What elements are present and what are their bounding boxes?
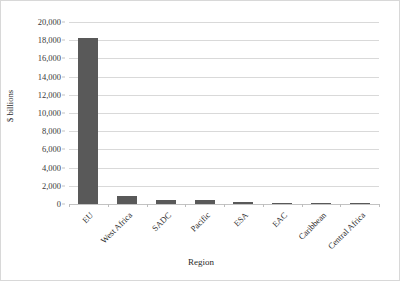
x-axis-tick-label: Caribbean	[296, 210, 328, 242]
bar-slot	[263, 22, 302, 204]
x-axis-tick-mark	[69, 204, 70, 207]
y-axis-tick-mark	[62, 185, 65, 186]
bar[interactable]	[78, 38, 98, 204]
x-axis-title: Region	[1, 257, 400, 267]
bar-slot	[108, 22, 147, 204]
bar-slot	[302, 22, 341, 204]
x-axis-tick-label: ESA	[232, 210, 250, 228]
bar-slot	[185, 22, 224, 204]
y-axis-title-text: $ billions	[5, 90, 15, 122]
x-axis-tick-label: Pacific	[188, 210, 212, 234]
y-axis-tick-label: 8,000	[42, 126, 61, 136]
x-axis-tick-label: EU	[80, 210, 95, 225]
y-axis-tick-mark	[62, 76, 65, 77]
bar-slot	[69, 22, 108, 204]
bar[interactable]	[117, 196, 137, 204]
y-axis-tick-labels: 02,0004,0006,0008,00010,00012,00014,0001…	[19, 22, 65, 204]
x-axis-tick-mark	[340, 204, 341, 207]
y-axis-tick-label: 0	[57, 199, 61, 209]
x-axis-tick-label: Central Africa	[325, 210, 366, 251]
bar-slot	[340, 22, 379, 204]
y-axis-tick-label: 2,000	[42, 181, 61, 191]
bars-group	[69, 22, 379, 204]
bar-chart-figure: $ billions 02,0004,0006,0008,00010,00012…	[0, 0, 400, 281]
y-axis-tick-label: 12,000	[38, 90, 61, 100]
x-axis-tick-labels: EUWest AfricaSADCPacificESAEACCaribbeanC…	[69, 208, 379, 256]
y-axis-tick-label: 16,000	[38, 53, 61, 63]
y-axis-tick-mark	[62, 204, 65, 205]
y-axis-tick-mark	[62, 149, 65, 150]
x-axis-tick-mark	[263, 204, 264, 207]
x-axis-tick-label: EAC	[270, 210, 289, 229]
x-axis-tick-mark	[185, 204, 186, 207]
y-axis-tick-label: 20,000	[38, 17, 61, 27]
x-axis-tick-mark	[302, 204, 303, 207]
y-axis-tick-mark	[62, 40, 65, 41]
y-axis-tick-label: 4,000	[42, 163, 61, 173]
x-axis-tick-mark	[147, 204, 148, 207]
y-axis-tick-mark	[62, 58, 65, 59]
y-axis-title: $ billions	[3, 1, 17, 211]
x-axis-tick-mark	[379, 204, 380, 207]
y-axis-tick-mark	[62, 94, 65, 95]
plot-area	[69, 22, 379, 204]
y-axis-tick-mark	[62, 22, 65, 23]
bar-slot	[147, 22, 186, 204]
y-axis-tick-label: 18,000	[38, 35, 61, 45]
y-axis-tick-mark	[62, 167, 65, 168]
y-axis-tick-mark	[62, 131, 65, 132]
x-axis-tick-label: SADC	[150, 210, 173, 233]
y-axis-tick-mark	[62, 113, 65, 114]
x-axis-tick-mark	[108, 204, 109, 207]
x-axis-tick-label: West Africa	[99, 210, 134, 245]
x-axis-tick-mark	[224, 204, 225, 207]
bar-slot	[224, 22, 263, 204]
y-axis-tick-label: 10,000	[38, 108, 61, 118]
y-axis-tick-label: 6,000	[42, 144, 61, 154]
y-axis-tick-label: 14,000	[38, 72, 61, 82]
